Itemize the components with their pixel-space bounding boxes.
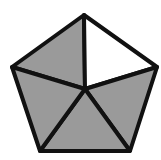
pentagon-diagram: 4/5 — [0, 0, 161, 160]
pentagon-svg — [0, 0, 161, 160]
